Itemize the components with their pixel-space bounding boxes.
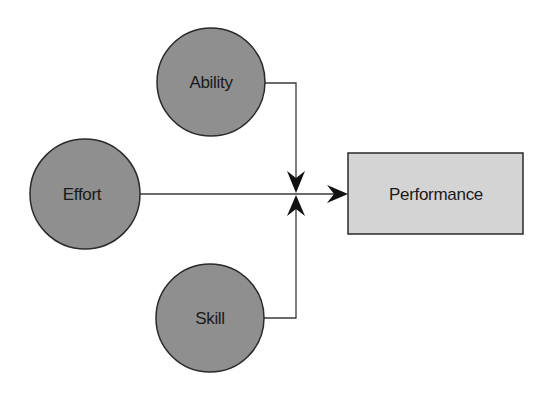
node-performance: Performance <box>348 153 523 234</box>
node-ability-label: Ability <box>189 73 233 92</box>
diagram-canvas: Ability Effort Skill Performance <box>0 0 555 394</box>
node-skill: Skill <box>156 264 264 372</box>
ability-connector <box>264 83 296 188</box>
node-performance-label: Performance <box>389 185 483 204</box>
node-ability: Ability <box>157 28 265 136</box>
node-skill-label: Skill <box>195 309 225 328</box>
node-effort: Effort <box>30 139 140 249</box>
skill-connector <box>263 200 296 318</box>
node-effort-label: Effort <box>63 185 102 204</box>
